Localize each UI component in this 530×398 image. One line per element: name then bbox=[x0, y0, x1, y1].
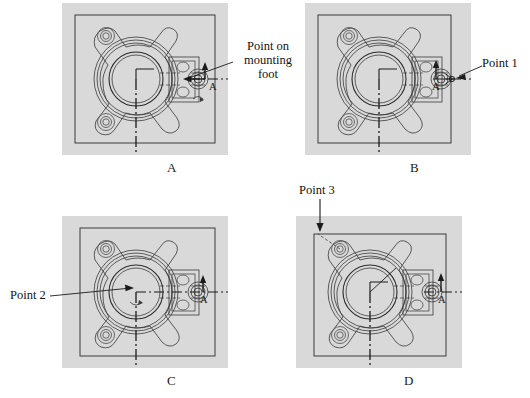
panel-a-drawing bbox=[62, 3, 228, 155]
panel-letter-b: B bbox=[410, 160, 419, 176]
callout-point-2: Point 2 bbox=[10, 288, 46, 302]
panel-c bbox=[62, 216, 228, 368]
panel-letter-d: D bbox=[404, 373, 413, 389]
figure-canvas: A Point on mounting foot A bbox=[0, 0, 530, 398]
panel-c-drawing bbox=[62, 216, 228, 368]
callout-point-3: Point 3 bbox=[299, 183, 335, 197]
panel-letter-a: A bbox=[167, 160, 176, 176]
panel-a bbox=[62, 3, 228, 155]
panel-d bbox=[296, 216, 462, 368]
panel-b-drawing bbox=[305, 3, 471, 155]
panel-d-drawing bbox=[296, 216, 462, 368]
callout-point-1: Point 1 bbox=[482, 56, 518, 70]
panel-b bbox=[305, 3, 471, 155]
panel-letter-c: C bbox=[167, 373, 176, 389]
callout-point-on-mounting-foot: Point on mounting foot bbox=[231, 39, 305, 81]
